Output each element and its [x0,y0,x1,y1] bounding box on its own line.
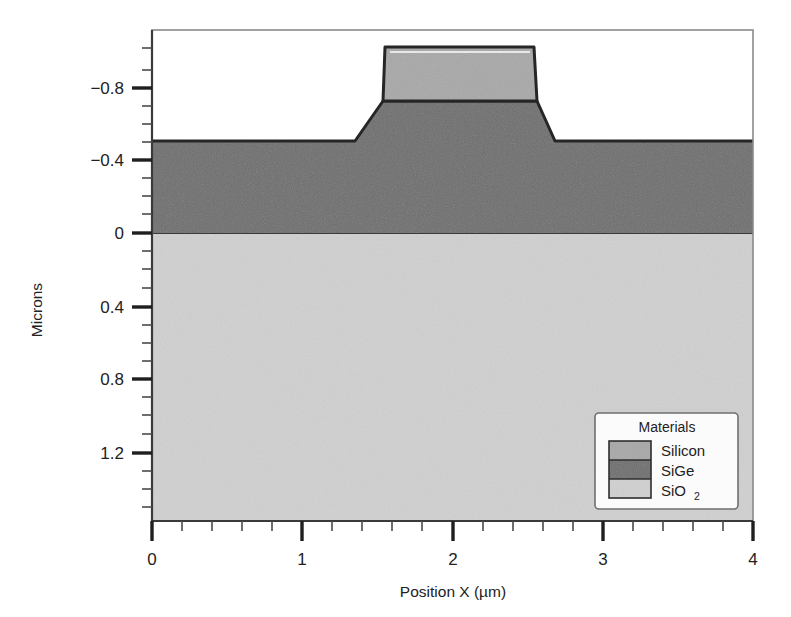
x-axis: 0 1 2 3 4 Position X (µm) [147,521,757,600]
y-tick-label-2: 0 [115,224,124,243]
legend-label-silicon: Silicon [661,442,705,459]
y-tick-label-1: −0.4 [90,151,124,170]
legend-swatch-sige [609,460,651,479]
legend-swatch-stack [609,441,651,498]
y-axis-title: Microns [28,283,45,338]
legend-label-sio2: SiO [661,482,686,499]
x-tick-label-1: 1 [297,550,306,569]
y-axis: −0.8 −0.4 0 0.4 0.8 1.2 Microns [28,30,152,521]
plot-svg: −0.8 −0.4 0 0.4 0.8 1.2 Microns [0,0,791,617]
legend-label-sio2-subscript: 2 [694,490,700,502]
y-tick-label-5: 1.2 [100,444,124,463]
x-axis-title: Position X (µm) [400,583,506,600]
x-tick-label-0: 0 [147,550,156,569]
x-tick-label-3: 3 [598,550,607,569]
y-tick-label-4: 0.8 [100,370,124,389]
legend-swatch-sio2 [609,479,651,498]
legend-swatch-silicon [609,441,651,460]
region-silicon-cap [383,47,537,101]
y-axis-minor-ticks [142,48,152,507]
legend: Materials Silicon SiGe SiO 2 [595,413,738,509]
x-tick-label-4: 4 [748,550,757,569]
semiconductor-cross-section-figure: −0.8 −0.4 0 0.4 0.8 1.2 Microns [0,0,791,617]
y-tick-label-3: 0.4 [100,298,124,317]
legend-label-sige: SiGe [661,462,694,479]
legend-title: Materials [639,419,696,435]
y-tick-label-0: −0.8 [90,79,124,98]
x-tick-label-2: 2 [448,550,457,569]
